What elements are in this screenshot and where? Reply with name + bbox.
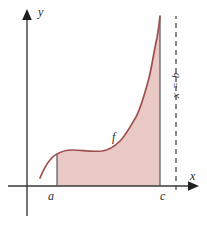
- asymptote-label: x = b: [170, 72, 181, 98]
- shaded-area-region: [57, 16, 160, 186]
- curve-label-f: f: [112, 131, 115, 143]
- y-axis-arrowhead: [22, 9, 32, 20]
- x-tick-label-c: c: [160, 190, 165, 202]
- figure-container: y x f a c x = b: [0, 0, 207, 226]
- y-axis-label: y: [38, 6, 43, 18]
- x-tick-label-a: a: [48, 190, 54, 202]
- graph-canvas: [0, 0, 207, 226]
- x-axis-label: x: [190, 170, 195, 182]
